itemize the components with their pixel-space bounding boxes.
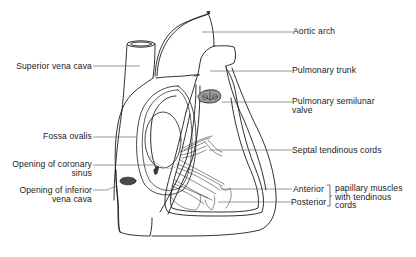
label-superior-vena-cava: Superior vena cava [16,62,92,71]
label-posterior: Posterior [291,198,326,207]
heart-diagram [0,0,416,257]
pulmonary-valve-shape [198,90,221,103]
label-papillary-muscles-group: papillary muscles with tendinous cords [335,184,403,210]
label-opening-inferior-vena-cava: Opening of inferior vena cava [19,186,92,203]
label-pulmonary-trunk: Pulmonary trunk [292,66,356,75]
label-opening-coronary-sinus: Opening of coronary sinus [12,160,92,177]
coronary-sinus-opening [154,166,159,174]
label-septal-tendinous-cords: Septal tendinous cords [292,146,382,155]
inferior-vena-cava-opening [120,177,136,185]
superior-vena-cava-shape [114,41,155,200]
label-pulmonary-semilunar-valve: Pulmonary semilunar valve [292,97,375,114]
pulmonary-trunk-shape [186,46,266,190]
label-aortic-arch: Aortic arch [293,27,335,36]
papillary-muscles [170,136,231,210]
right-atrium-shape [115,78,196,236]
papillary-bracket [327,185,332,206]
aortic-arch-shape [155,12,214,78]
label-fossa-ovalis: Fossa ovalis [43,132,92,141]
label-anterior: Anterior [293,185,324,194]
